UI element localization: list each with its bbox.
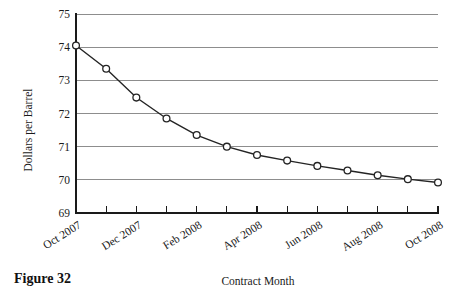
- y-axis-tick-label: 74: [59, 41, 71, 53]
- data-point-marker: [314, 163, 321, 170]
- line-chart: 69707172737475 Oct 2007Dec 2007Feb 2008A…: [0, 0, 456, 298]
- x-axis-tick-label: Aug 2008: [340, 218, 386, 253]
- x-axis-tick-label: Oct 2007: [41, 218, 84, 251]
- x-axis-tick-labels: Oct 2007Dec 2007Feb 2008Apr 2008Jun 2008…: [41, 218, 446, 253]
- x-axis-tickmarks: [76, 206, 438, 213]
- data-point-marker: [133, 94, 140, 101]
- y-axis-tick-labels: 69707172737475: [59, 8, 71, 219]
- data-point-marker: [254, 152, 261, 159]
- y-axis-tick-label: 70: [59, 174, 71, 186]
- data-point-marker: [284, 157, 291, 164]
- data-point-marker: [193, 132, 200, 139]
- data-point-marker: [435, 179, 442, 186]
- y-axis-tick-label: 75: [59, 8, 71, 20]
- y-axis-title: Dollars per Barrel: [22, 88, 35, 171]
- data-point-marker: [404, 176, 411, 183]
- x-axis-title: Contract Month: [221, 275, 294, 287]
- data-point-marker: [344, 167, 351, 174]
- x-axis-tick-label: Apr 2008: [221, 218, 265, 252]
- y-axis-tick-label: 69: [59, 207, 71, 219]
- x-axis-tick-label: Feb 2008: [161, 218, 204, 251]
- y-axis-tick-label: 72: [59, 108, 71, 120]
- x-axis-tick-label: Jun 2008: [283, 218, 325, 250]
- x-axis-tick-label: Oct 2008: [403, 218, 446, 251]
- x-axis-tick-label: Dec 2007: [99, 218, 143, 252]
- data-point-marker: [163, 115, 170, 122]
- y-axis-tick-label: 71: [59, 141, 71, 153]
- data-point-marker: [103, 65, 110, 72]
- data-point-marker: [374, 172, 381, 179]
- figure-caption: Figure 32: [14, 271, 71, 286]
- figure-container: 69707172737475 Oct 2007Dec 2007Feb 2008A…: [0, 0, 456, 298]
- y-axis-tick-label: 73: [59, 74, 71, 86]
- data-point-marker: [223, 143, 230, 150]
- data-point-marker: [73, 42, 80, 49]
